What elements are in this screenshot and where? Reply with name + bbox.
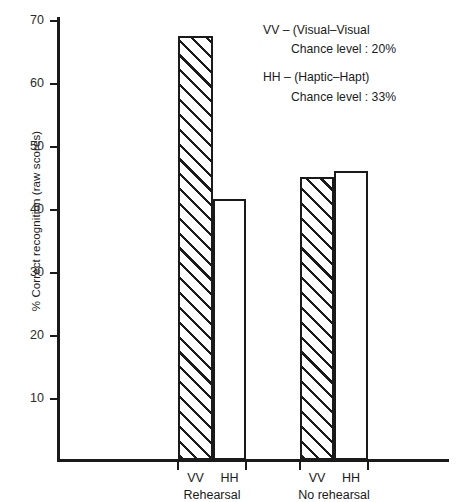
x-axis-line [57,459,449,462]
legend: VV – (Visual–Visual Chance level : 20% H… [263,24,396,119]
x-label-norehearsal-hh: HH [334,472,368,485]
legend-vv-chance: Chance level : 20% [263,43,396,55]
y-tick-mark-20 [50,335,58,337]
y-tick-label-40: 40 [10,203,44,216]
x-tick-mark-1 [177,461,179,470]
y-tick-label-20: 20 [10,329,44,342]
x-group-label-rehearsal: Rehearsal [152,489,272,502]
y-tick-mark-40 [50,209,58,211]
legend-entry-vv: VV – (Visual–Visual Chance level : 20% [263,24,396,55]
x-tick-mark-4 [367,461,369,470]
bar-chart-figure: % Correct recognition (raw scores) 70 60… [0,0,456,502]
bar-norehearsal-hh [334,171,368,460]
x-tick-mark-2 [245,461,247,470]
x-label-rehearsal-hh: HH [213,472,246,485]
bar-norehearsal-vv [300,177,334,460]
y-tick-label-10: 10 [10,392,44,405]
bar-rehearsal-vv [178,36,213,460]
x-tick-mark-3 [299,461,301,470]
legend-hh-title: HH – (Haptic–Hapt) [263,71,396,83]
y-tick-mark-70 [50,20,58,22]
y-tick-label-70: 70 [10,14,44,27]
x-label-rehearsal-vv: VV [178,472,213,485]
y-tick-label-30: 30 [10,266,44,279]
legend-hh-chance: Chance level : 33% [263,91,396,103]
x-label-norehearsal-vv: VV [300,472,334,485]
y-axis-title: % Correct recognition (raw scores) [30,91,42,351]
y-tick-label-50: 50 [10,140,44,153]
y-tick-mark-50 [50,146,58,148]
y-tick-mark-30 [50,272,58,274]
bar-rehearsal-hh [213,199,246,460]
y-tick-mark-60 [50,83,58,85]
x-group-label-norehearsal: No rehearsal [274,489,394,502]
legend-entry-hh: HH – (Haptic–Hapt) Chance level : 33% [263,71,396,102]
y-tick-mark-10 [50,398,58,400]
legend-vv-title: VV – (Visual–Visual [263,24,396,36]
y-tick-label-60: 60 [10,77,44,90]
